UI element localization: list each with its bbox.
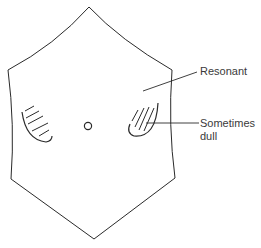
resonant-label: Resonant xyxy=(200,65,247,77)
left-dull-area xyxy=(22,106,52,142)
right-dull-area xyxy=(129,103,158,136)
sometimes-dull-label-line1: Sometimes xyxy=(200,117,255,129)
center-circle xyxy=(84,122,91,129)
resonant-leader-line xyxy=(143,72,197,91)
sometimes-dull-label-line2: dull xyxy=(200,130,217,142)
